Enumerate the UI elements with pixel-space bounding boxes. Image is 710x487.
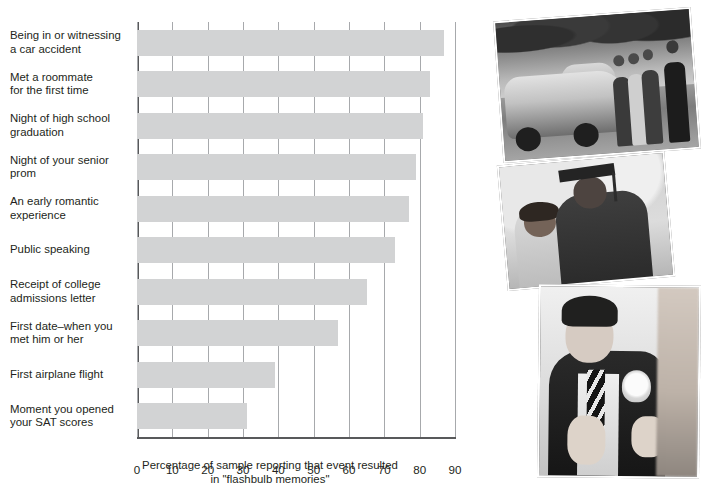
category-label-line: Public speaking	[10, 243, 132, 257]
bar	[137, 403, 247, 429]
bar-chart: Being in or witnessinga car accidentMet …	[0, 0, 490, 487]
category-label: Moment you openedyour SAT scores	[10, 403, 132, 430]
category-label: Night of high schoolgraduation	[10, 112, 132, 139]
category-label-line: Being in or witnessing	[10, 29, 132, 43]
category-label: Being in or witnessinga car accident	[10, 29, 132, 56]
plot-area: 0102030405060708090	[137, 22, 455, 437]
category-label-line: your SAT scores	[10, 416, 132, 430]
category-label: Night of your seniorprom	[10, 154, 132, 181]
category-label: Met a roommatefor the first time	[10, 71, 132, 98]
bar	[137, 196, 409, 222]
bar	[137, 237, 395, 263]
category-label-line: Moment you opened	[10, 403, 132, 417]
category-label-line: admissions letter	[10, 292, 132, 306]
category-label: Public speaking	[10, 243, 132, 257]
graduation-photo	[497, 151, 675, 291]
prom-photo	[537, 284, 701, 479]
category-label-line: Met a roommate	[10, 71, 132, 85]
photo-collage	[490, 0, 710, 487]
category-label-line: experience	[10, 209, 132, 223]
car-accident-photo	[493, 7, 701, 163]
category-label-line: Night of your senior	[10, 154, 132, 168]
x-axis-line	[137, 437, 456, 439]
category-label-line: prom	[10, 167, 132, 181]
category-label-line: First airplane flight	[10, 368, 132, 382]
category-label-line: First date–when you	[10, 320, 132, 334]
category-label: First airplane flight	[10, 368, 132, 382]
bar	[137, 362, 275, 388]
category-label: First date–when youmet him or her	[10, 320, 132, 347]
bar	[137, 320, 338, 346]
category-label: Receipt of collegeadmissions letter	[10, 278, 132, 305]
bar	[137, 71, 430, 97]
category-label-line: met him or her	[10, 333, 132, 347]
category-axis-labels: Being in or witnessinga car accidentMet …	[0, 22, 130, 437]
category-label-line: An early romantic	[10, 195, 132, 209]
bar	[137, 30, 444, 56]
x-axis-title: Percentage of sample reporting that even…	[60, 459, 480, 486]
category-label-line: a car accident	[10, 43, 132, 57]
gridline	[455, 22, 456, 437]
x-axis-title-line: in "flashbulb memories"	[60, 473, 480, 487]
category-label-line: Receipt of college	[10, 278, 132, 292]
bar	[137, 279, 367, 305]
category-label-line: graduation	[10, 126, 132, 140]
x-axis-title-line: Percentage of sample reporting that even…	[60, 459, 480, 473]
bar	[137, 154, 416, 180]
bar	[137, 113, 423, 139]
category-label-line: Night of high school	[10, 112, 132, 126]
category-label: An early romanticexperience	[10, 195, 132, 222]
category-label-line: for the first time	[10, 84, 132, 98]
